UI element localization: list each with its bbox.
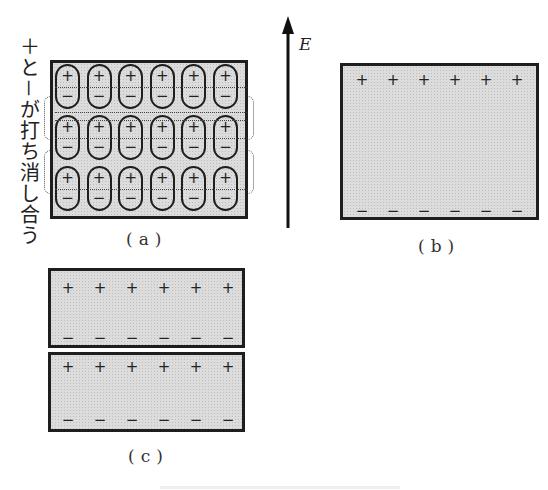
positive-charge-icon: +	[478, 73, 494, 88]
positive-charge-icon: +	[416, 73, 432, 88]
negative-charge-icon: −	[354, 204, 370, 219]
positive-charge-icon: +	[447, 73, 463, 88]
panel-c-lower-slab	[48, 352, 245, 432]
negative-charge-icon: −	[478, 204, 494, 219]
negative-charge-icon: −	[154, 89, 170, 104]
positive-charge-icon: +	[124, 281, 140, 296]
electric-field-arrow-icon	[280, 14, 300, 230]
positive-charge-icon: +	[385, 73, 401, 88]
negative-charge-icon: −	[92, 413, 108, 428]
negative-charge-icon: −	[416, 204, 432, 219]
positive-charge-icon: +	[188, 360, 204, 375]
negative-charge-icon: −	[154, 191, 170, 206]
positive-charge-icon: +	[220, 281, 236, 296]
dipole-midline	[55, 189, 247, 190]
positive-charge-icon: +	[91, 69, 107, 84]
negative-charge-icon: −	[60, 331, 76, 346]
positive-charge-icon: +	[218, 120, 234, 135]
positive-charge-icon: +	[186, 120, 202, 135]
negative-charge-icon: −	[220, 413, 236, 428]
dipole-midline	[55, 87, 247, 88]
field-label: E	[299, 34, 311, 54]
positive-charge-icon: +	[60, 69, 76, 84]
positive-charge-icon: +	[156, 281, 172, 296]
row-boundary-dotline	[55, 120, 247, 121]
positive-charge-icon: +	[509, 73, 525, 88]
positive-charge-icon: +	[92, 281, 108, 296]
negative-charge-icon: −	[188, 331, 204, 346]
positive-charge-icon: +	[154, 120, 170, 135]
positive-charge-icon: +	[60, 120, 76, 135]
positive-charge-icon: +	[91, 120, 107, 135]
negative-charge-icon: −	[188, 413, 204, 428]
negative-charge-icon: −	[186, 89, 202, 104]
negative-charge-icon: −	[186, 140, 202, 155]
positive-charge-icon: +	[354, 73, 370, 88]
cancel-annotation-label: ＋と－が打ち消し合う	[14, 36, 43, 246]
positive-charge-icon: +	[220, 360, 236, 375]
negative-charge-icon: −	[123, 140, 139, 155]
panel-b-caption: (b)	[418, 236, 460, 256]
negative-charge-icon: −	[124, 331, 140, 346]
positive-charge-icon: +	[154, 69, 170, 84]
positive-charge-icon: +	[60, 281, 76, 296]
cut-off-caption-line	[160, 486, 400, 489]
positive-charge-icon: +	[123, 120, 139, 135]
negative-charge-icon: −	[156, 331, 172, 346]
negative-charge-icon: −	[60, 140, 76, 155]
positive-charge-icon: +	[91, 171, 107, 186]
positive-charge-icon: +	[186, 171, 202, 186]
negative-charge-icon: −	[124, 413, 140, 428]
negative-charge-icon: −	[91, 191, 107, 206]
negative-charge-icon: −	[156, 413, 172, 428]
positive-charge-icon: +	[123, 171, 139, 186]
row-boundary-dotline	[55, 112, 247, 113]
negative-charge-icon: −	[220, 331, 236, 346]
negative-charge-icon: −	[60, 191, 76, 206]
positive-charge-icon: +	[186, 69, 202, 84]
panel-c-caption: (c)	[128, 446, 169, 466]
positive-charge-icon: +	[123, 69, 139, 84]
negative-charge-icon: −	[123, 89, 139, 104]
negative-charge-icon: −	[218, 191, 234, 206]
positive-charge-icon: +	[60, 171, 76, 186]
positive-charge-icon: +	[218, 69, 234, 84]
negative-charge-icon: −	[60, 89, 76, 104]
positive-charge-icon: +	[188, 281, 204, 296]
negative-charge-icon: −	[218, 140, 234, 155]
negative-charge-icon: −	[60, 413, 76, 428]
negative-charge-icon: −	[92, 331, 108, 346]
negative-charge-icon: −	[91, 89, 107, 104]
positive-charge-icon: +	[60, 360, 76, 375]
negative-charge-icon: −	[509, 204, 525, 219]
positive-charge-icon: +	[92, 360, 108, 375]
panel-c-upper-slab	[48, 268, 245, 348]
positive-charge-icon: +	[154, 171, 170, 186]
negative-charge-icon: −	[154, 140, 170, 155]
positive-charge-icon: +	[218, 171, 234, 186]
positive-charge-icon: +	[156, 360, 172, 375]
panel-a-caption: (a)	[126, 229, 167, 249]
negative-charge-icon: −	[186, 191, 202, 206]
negative-charge-icon: −	[123, 191, 139, 206]
positive-charge-icon: +	[124, 360, 140, 375]
negative-charge-icon: −	[385, 204, 401, 219]
negative-charge-icon: −	[218, 89, 234, 104]
negative-charge-icon: −	[91, 140, 107, 155]
negative-charge-icon: −	[447, 204, 463, 219]
dipole-midline	[55, 138, 247, 139]
